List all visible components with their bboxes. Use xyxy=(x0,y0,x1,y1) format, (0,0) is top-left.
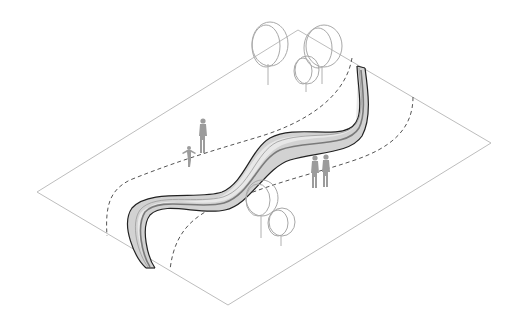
person-adult-right-2 xyxy=(322,154,330,187)
person-adult-right-1 xyxy=(311,155,319,188)
tree xyxy=(304,25,342,84)
tree xyxy=(268,208,295,246)
tree xyxy=(294,56,319,92)
dashed-path-right xyxy=(170,97,413,270)
tree xyxy=(252,22,288,85)
tree-group-top xyxy=(252,22,342,92)
person-adult-left xyxy=(199,118,207,153)
axonometric-drawing xyxy=(0,0,512,328)
diagram-canvas xyxy=(0,0,512,328)
